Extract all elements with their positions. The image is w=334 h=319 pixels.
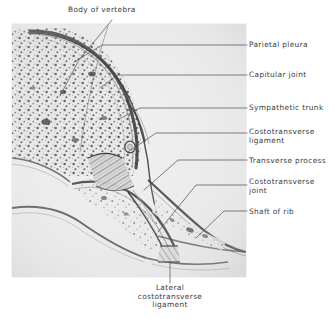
label-line: ligament (112, 301, 228, 310)
label-line: joint (249, 187, 333, 196)
label-sympathetic-trunk: Sympathetic trunk (249, 104, 324, 113)
label-shaft-of-rib: Shaft of rib (249, 208, 294, 217)
label-costotransverse-joint: Costotransverse joint (249, 178, 333, 195)
label-lateral-costotransverse-ligament: Lateral costotransverse ligament (112, 284, 228, 310)
label-line: ligament (249, 137, 333, 146)
photomicrograph-panel (12, 24, 246, 277)
anatomy-figure: Body of vertebra Parietal pleura Capitul… (0, 0, 334, 319)
label-costotransverse-ligament: Costotransverse ligament (249, 128, 333, 145)
label-parietal-pleura: Parietal pleura (249, 41, 308, 50)
label-capitular-joint: Capitular joint (249, 71, 306, 80)
label-body-of-vertebra: Body of vertebra (68, 6, 136, 15)
label-transverse-process: Transverse process (249, 157, 326, 166)
